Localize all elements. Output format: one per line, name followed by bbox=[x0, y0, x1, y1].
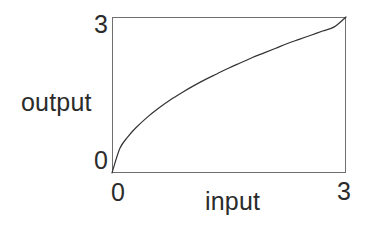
curve-layer bbox=[112, 17, 346, 173]
figure-root: 3 0 0 3 output input bbox=[0, 0, 374, 227]
y-axis-title: output bbox=[21, 90, 92, 115]
x-axis-tick-label-min: 0 bbox=[107, 180, 129, 205]
y-axis-tick-label-max: 3 bbox=[86, 12, 108, 37]
y-axis-tick-label-min: 0 bbox=[86, 148, 108, 173]
x-axis-title: input bbox=[205, 189, 260, 214]
transfer-curve-path bbox=[112, 17, 346, 173]
x-axis-tick-label-max: 3 bbox=[333, 179, 355, 204]
